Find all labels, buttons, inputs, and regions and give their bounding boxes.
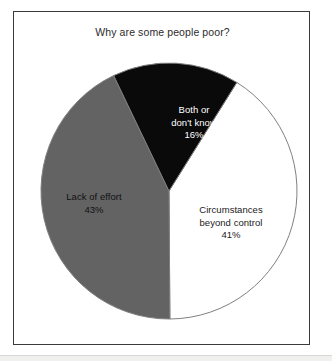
pie-label-lack-of-effort: Lack of effort 43%: [34, 191, 154, 216]
pie-label-circ-line2: beyond control: [167, 217, 295, 230]
pie-label-circ-percent: 41%: [167, 229, 295, 242]
pie-label-both-or-dont-know: Both or don't know 16%: [146, 104, 242, 142]
pie-label-circ-line1: Circumstances: [167, 204, 295, 217]
pie-svg: [14, 12, 311, 346]
pie-chart: [14, 12, 311, 346]
pie-label-lack-percent: 43%: [34, 204, 154, 217]
pie-label-lack-line1: Lack of effort: [34, 191, 154, 204]
page-bottom-edge: [0, 355, 332, 361]
pie-label-circumstances-beyond-control: Circumstances beyond control 41%: [167, 204, 295, 242]
chart-frame: Why are some people poor? Both or don't …: [13, 11, 310, 345]
pie-label-both-line2: don't know: [146, 117, 242, 130]
pie-label-both-percent: 16%: [146, 129, 242, 142]
pie-label-both-line1: Both or: [146, 104, 242, 117]
figure-root: Why are some people poor? Both or don't …: [0, 0, 332, 361]
